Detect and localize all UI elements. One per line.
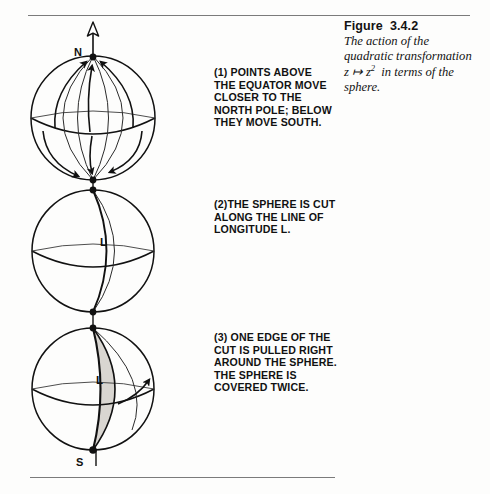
figure-page: Figure 3.4.2 The action of the quadratic…: [0, 0, 490, 494]
sphere-1-north-pole-dot: [90, 54, 97, 61]
sphere-1-outline: [31, 56, 155, 180]
sphere-2-meridian-back: [93, 190, 115, 312]
sphere-2-L-label: L: [100, 236, 107, 248]
sphere-1-flow-arrow-down-center: [90, 136, 92, 173]
sphere-3-south-label: S: [76, 456, 83, 468]
sphere-diagram: N L: [0, 0, 490, 494]
sphere-1: N: [31, 22, 155, 183]
sphere-2-outline: [32, 190, 154, 312]
sphere-1-equator-front: [31, 118, 155, 134]
sphere-1-meridian-center-right: [93, 56, 109, 180]
sphere-3-L-label: L: [96, 374, 103, 386]
sphere-3-north-pole-dot: [90, 325, 97, 332]
sphere-2: L: [32, 187, 154, 316]
sphere-1-north-label: N: [74, 46, 82, 58]
sphere-2-equator-back: [32, 244, 154, 251]
sphere-2-equator-front: [32, 251, 154, 267]
sphere-1-flow-arrow-up-center: [88, 66, 92, 132]
sphere-3-equator-back: [32, 382, 154, 389]
sphere-1-equator-back: [31, 111, 155, 118]
north-axis-arrow-icon: [87, 22, 98, 57]
sphere-3: L S: [32, 325, 154, 468]
sphere-1-flow-arrow-up-left: [55, 62, 86, 128]
